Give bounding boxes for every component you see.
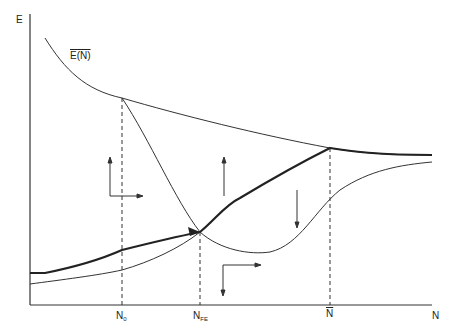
tick-nfe: NFE [193, 310, 208, 322]
tick-nbar-main: N [326, 308, 333, 319]
curve-label: E(N) [70, 50, 91, 61]
tick-n0: N0 [116, 310, 127, 322]
phase-arrow-down [295, 190, 299, 228]
lower-curve [30, 232, 200, 284]
equilibrium-path [30, 148, 432, 273]
phase-arrow-up [222, 157, 226, 196]
phase-arrows-left [108, 157, 143, 198]
curve-label-text: E(N) [70, 50, 91, 61]
phase-arrows-bottom [221, 263, 261, 296]
y-axis-label: E [16, 14, 23, 25]
tick-nbar: N [326, 308, 333, 319]
tick-nfe-sub: FE [200, 316, 208, 322]
average-curve [45, 38, 432, 155]
x-axis-label: N [432, 310, 439, 321]
tick-n0-sub: 0 [123, 316, 126, 322]
path-arrowhead [188, 227, 200, 236]
